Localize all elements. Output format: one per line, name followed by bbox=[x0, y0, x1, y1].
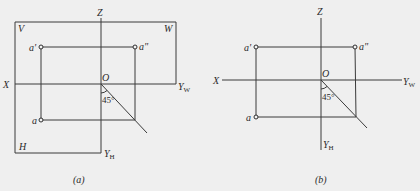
label-point-a: a bbox=[32, 115, 37, 126]
label-origin: O bbox=[322, 68, 329, 79]
projection-figure: V W H Z X O YW YH a' a" a 45° (a) bbox=[0, 0, 420, 191]
panel-b: Z X O YW YH a' a" a 45° (b) bbox=[212, 6, 416, 186]
point-a bbox=[254, 115, 258, 119]
label-axis-z: Z bbox=[97, 7, 103, 18]
projection-line-side bbox=[355, 47, 356, 117]
point-a-prime bbox=[39, 45, 43, 49]
point-a-double-prime bbox=[133, 45, 137, 49]
caption-b: (b) bbox=[315, 174, 327, 186]
vw-plane-frame bbox=[15, 22, 176, 84]
label-point-a-double-prime: a" bbox=[359, 41, 369, 52]
label-point-a-prime: a' bbox=[29, 42, 37, 53]
panel-a: V W H Z X O YW YH a' a" a 45° (a) bbox=[2, 7, 191, 186]
angle-arc bbox=[101, 91, 107, 94]
label-axis-yw: YW bbox=[178, 81, 191, 94]
label-axis-z: Z bbox=[317, 6, 323, 17]
miter-line-45 bbox=[321, 80, 367, 128]
label-axis-x: X bbox=[2, 79, 10, 90]
figure-canvas: V W H Z X O YW YH a' a" a 45° (a) bbox=[0, 0, 420, 191]
label-point-a-prime: a' bbox=[244, 42, 252, 53]
label-axis-x: X bbox=[212, 75, 220, 86]
angle-arc bbox=[321, 87, 327, 90]
label-origin: O bbox=[102, 72, 109, 83]
label-angle-45: 45° bbox=[102, 95, 115, 105]
label-axis-yw: YW bbox=[403, 76, 416, 89]
point-a bbox=[39, 118, 43, 122]
point-a-double-prime bbox=[353, 45, 357, 49]
label-plane-h: H bbox=[18, 141, 27, 152]
label-angle-45: 45° bbox=[322, 92, 335, 102]
point-a-prime bbox=[254, 45, 258, 49]
label-axis-yh: YH bbox=[323, 139, 334, 152]
miter-line-45 bbox=[101, 84, 147, 133]
label-plane-v: V bbox=[18, 23, 26, 34]
label-plane-w: W bbox=[164, 23, 174, 34]
caption-a: (a) bbox=[73, 174, 85, 186]
h-plane-frame bbox=[15, 84, 101, 153]
label-point-a-double-prime: a" bbox=[139, 41, 149, 52]
label-axis-yh: YH bbox=[104, 148, 115, 161]
label-point-a: a bbox=[246, 112, 251, 123]
